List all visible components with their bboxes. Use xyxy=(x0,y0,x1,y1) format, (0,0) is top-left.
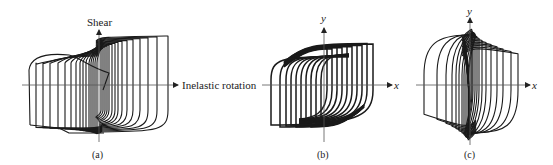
caption-a: (a) xyxy=(92,149,103,161)
panel-b: y x (b) xyxy=(262,12,399,161)
caption-c: (c) xyxy=(464,149,475,161)
y-axis-label-a: Shear xyxy=(87,16,112,28)
y-axis-label-b: y xyxy=(320,12,326,24)
x-axis-label-b: x xyxy=(393,79,399,91)
hysteresis-loops-c xyxy=(424,29,518,139)
x-axis-label-c: x xyxy=(531,79,537,91)
figure-canvas: Shear Inelastic rotation (a) y x (b) y x… xyxy=(0,0,553,165)
panel-c: y x (c) xyxy=(416,5,537,161)
hysteresis-figure: Shear Inelastic rotation (a) y x (b) y x… xyxy=(0,0,553,165)
caption-b: (b) xyxy=(317,149,329,161)
x-axis-label-a: Inelastic rotation xyxy=(182,79,257,91)
y-axis-label-c: y xyxy=(466,5,472,17)
panel-a: Shear Inelastic rotation (a) xyxy=(22,16,257,161)
